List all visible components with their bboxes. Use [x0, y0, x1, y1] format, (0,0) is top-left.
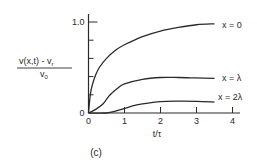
y-label-numerator-sub: r [52, 61, 54, 67]
svg-text:v(x,t) - vr: v(x,t) - vr [19, 56, 54, 67]
series-line-1 [89, 77, 215, 113]
y-label-numerator: v(x,t) - v [19, 56, 52, 66]
labels: x = 0 x = λ x = 2λ t/τ (c) v(x,t) - vr v… [17, 20, 243, 158]
x-tick-label: 4 [230, 116, 235, 126]
series-label-x-lambda: x = λ [222, 73, 242, 83]
series-line-2 [89, 101, 215, 113]
x-tick-label: 1 [122, 116, 127, 126]
svg-text:v0: v0 [40, 69, 49, 80]
x-tick-label: 2 [158, 116, 163, 126]
y-tick-label: 1.0 [72, 17, 85, 27]
x-tick-label: 3 [194, 116, 199, 126]
chart: 0123401.0 x = 0 x = λ x = 2λ t/τ (c) v(x… [0, 0, 257, 164]
y-label-denominator-sub: 0 [45, 74, 49, 80]
x-tick-label: 0 [86, 116, 91, 126]
panel-label: (c) [90, 147, 102, 158]
y-axis-label: v(x,t) - vr v0 [17, 56, 72, 80]
series-label-x0: x = 0 [222, 20, 242, 30]
series-line-0 [89, 24, 215, 113]
curves [89, 24, 215, 113]
series-label-x-2lambda: x = 2λ [218, 92, 243, 102]
y-tick-label: 0 [79, 108, 84, 118]
x-axis-label: t/τ [153, 129, 162, 139]
